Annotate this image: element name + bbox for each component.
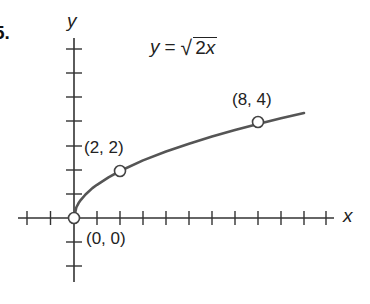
- radical-sign-icon: √: [181, 37, 193, 58]
- equation-label: y = √ 2x: [150, 36, 217, 58]
- point-2-2-marker: [115, 166, 126, 177]
- radicand: 2x: [193, 37, 217, 58]
- equation-equals: =: [165, 36, 176, 58]
- problem-number: 5.: [0, 22, 10, 44]
- point-label-origin: (0, 0): [86, 229, 126, 249]
- sqrt-curve: [74, 113, 304, 218]
- radicand-var: x: [206, 37, 216, 58]
- point-label-2-2: (2, 2): [84, 138, 124, 158]
- square-root: √ 2x: [181, 37, 218, 58]
- point-origin-marker: [69, 213, 80, 224]
- radicand-coef: 2: [195, 37, 206, 58]
- y-axis-label: y: [67, 10, 77, 32]
- x-axis-label: x: [343, 205, 353, 227]
- point-8-4-marker: [253, 117, 264, 128]
- equation-lhs: y: [150, 36, 160, 58]
- point-label-8-4: (8, 4): [232, 90, 272, 110]
- figure: 5. y x y = √ 2x (2, 2) (8, 4) (0, 0): [0, 0, 370, 304]
